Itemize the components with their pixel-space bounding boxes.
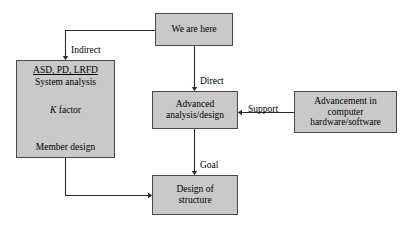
node-advanced-analysis-design-line1: Advanced: [176, 99, 215, 110]
node-design-methods-k-factor: K factor: [17, 105, 114, 116]
flowchart-diagram: We are here ASD, PD, LRFD System analysi…: [0, 0, 402, 226]
node-we-are-here[interactable]: We are here: [155, 13, 233, 46]
node-design-of-structure-line1: Design of: [176, 184, 213, 195]
node-design-of-structure[interactable]: Design of structure: [152, 175, 238, 215]
node-hardware-line2: computer: [328, 107, 364, 118]
node-design-methods[interactable]: ASD, PD, LRFD System analysis K factor M…: [16, 60, 115, 158]
node-advanced-analysis-design-line2: analysis/design: [166, 110, 224, 121]
k-factor-word: factor: [56, 105, 81, 115]
node-we-are-here-label: We are here: [171, 24, 216, 35]
edge-label-direct: Direct: [200, 76, 224, 86]
node-advanced-analysis-design[interactable]: Advanced analysis/design: [152, 91, 238, 129]
node-design-methods-member-design: Member design: [17, 142, 114, 153]
edge-label-indirect: Indirect: [71, 45, 101, 55]
edge-label-goal: Goal: [200, 160, 218, 170]
node-hardware-line1: Advancement in: [314, 96, 377, 107]
node-design-methods-header: ASD, PD, LRFD: [33, 65, 98, 76]
node-hardware-line3: hardware/software: [310, 117, 381, 128]
node-design-methods-subheader: System analysis: [35, 77, 96, 88]
edge-label-support: Support: [248, 104, 278, 114]
node-design-of-structure-line2: structure: [178, 195, 211, 206]
node-advancement-computer-hardware-software[interactable]: Advancement in computer hardware/softwar…: [294, 91, 397, 133]
edge-member-design-to-structure: [66, 158, 150, 196]
